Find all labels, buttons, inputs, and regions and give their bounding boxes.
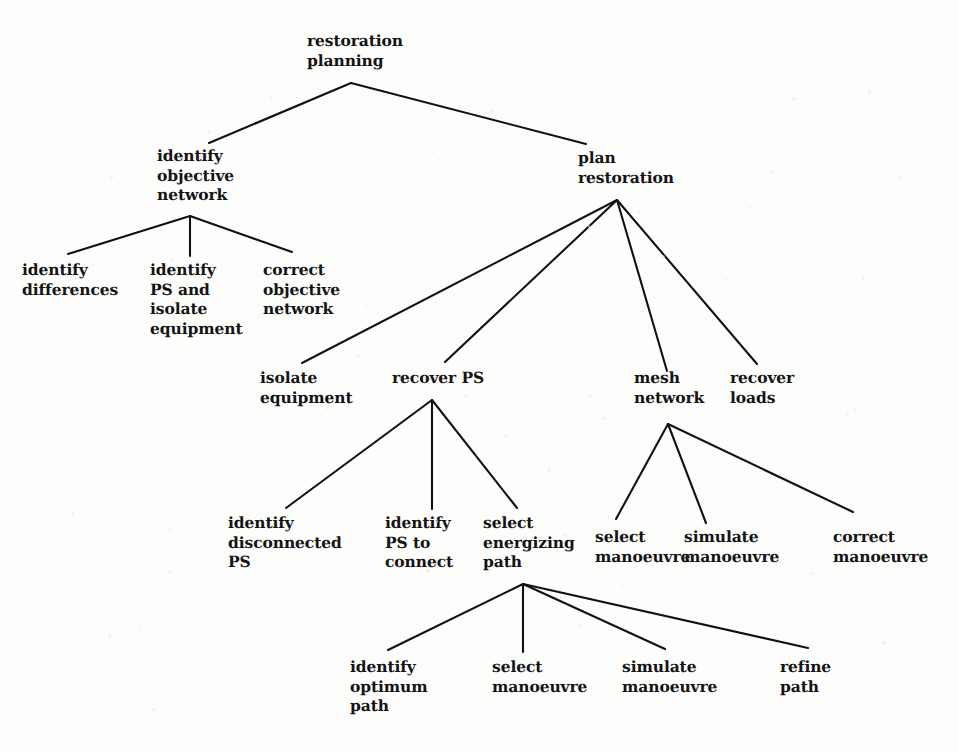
paper-speckle: [118, 182, 120, 184]
edge-restoration-planning-to-plan-restoration: [351, 83, 586, 144]
node-label-line: PS and: [150, 280, 243, 300]
paper-speckle: [782, 726, 784, 728]
paper-speckle: [110, 176, 112, 178]
paper-speckle: [853, 408, 856, 411]
paper-speckle: [579, 623, 582, 626]
paper-speckle: [622, 583, 625, 586]
edge-mesh-network-to-correct-manoeuvre: [668, 424, 853, 512]
paper-speckle: [771, 171, 774, 174]
diagram-canvas: restorationplanningidentifyobjectivenetw…: [0, 0, 959, 752]
node-correct-objective-network[interactable]: correctobjectivenetwork: [263, 260, 340, 319]
node-label-line: path: [780, 677, 831, 697]
node-label-line: identify: [22, 260, 118, 280]
edge-identify-objective-network-to-identify-differences: [68, 216, 190, 254]
node-label-line: connect: [385, 552, 453, 572]
node-label-line: equipment: [260, 388, 353, 408]
node-label-line: manoeuvre: [684, 547, 779, 567]
node-label-line: objective: [157, 166, 234, 186]
paper-speckle: [490, 110, 494, 114]
paper-speckle: [40, 594, 42, 596]
node-label-line: optimum: [350, 677, 428, 697]
node-label-line: select: [483, 513, 575, 533]
node-label-line: plan: [578, 148, 674, 168]
edge-mesh-network-to-simulate-manoeuvre-mesh: [668, 424, 706, 523]
paper-speckle: [882, 641, 886, 645]
node-correct-manoeuvre[interactable]: correctmanoeuvre: [833, 527, 928, 566]
paper-speckle: [36, 243, 37, 244]
paper-speckle: [588, 395, 591, 398]
edge-plan-restoration-to-mesh-network: [617, 200, 667, 371]
edge-plan-restoration-to-isolate-equipment: [302, 200, 617, 363]
node-label-line: select: [492, 657, 587, 677]
paper-speckle: [901, 288, 902, 289]
node-select-manoeuvre-path[interactable]: selectmanoeuvre: [492, 657, 587, 696]
node-simulate-manoeuvre-mesh[interactable]: simulatemanoeuvre: [684, 527, 779, 566]
node-plan-restoration[interactable]: planrestoration: [578, 148, 674, 187]
node-simulate-manoeuvre-path[interactable]: simulatemanoeuvre: [622, 657, 717, 696]
paper-speckle: [372, 608, 373, 609]
paper-speckle: [748, 206, 751, 209]
node-refine-path[interactable]: refinepath: [780, 657, 831, 696]
node-label-line: path: [483, 552, 575, 572]
paper-speckle: [464, 394, 467, 397]
paper-speckle: [169, 528, 172, 531]
node-label-line: network: [634, 388, 704, 408]
node-label-line: mesh: [634, 368, 704, 388]
node-identify-disconnected-ps[interactable]: identifydisconnectedPS: [228, 513, 342, 572]
node-label-line: restoration: [307, 31, 403, 51]
paper-speckle: [387, 474, 388, 475]
paper-speckle: [563, 533, 567, 537]
paper-speckle: [356, 354, 359, 357]
node-label-line: identify: [157, 146, 234, 166]
edge-recover-ps-to-identify-disconnected-ps: [286, 400, 432, 508]
node-identify-ps-and-isolate-equipment[interactable]: identifyPS andisolateequipment: [150, 260, 243, 338]
node-label-line: manoeuvre: [492, 677, 587, 697]
node-label-line: path: [350, 696, 428, 716]
node-label-line: PS to: [385, 533, 453, 553]
paper-speckle: [799, 229, 801, 231]
paper-speckle: [711, 320, 713, 322]
paper-speckle: [504, 434, 507, 437]
paper-speckle: [862, 276, 866, 280]
paper-speckle: [464, 523, 465, 524]
node-label-line: energizing: [483, 533, 575, 553]
node-label-line: network: [263, 299, 340, 319]
paper-speckle: [171, 639, 172, 640]
node-label-line: identify: [350, 657, 428, 677]
paper-speckle: [661, 255, 665, 259]
node-select-energizing-path[interactable]: selectenergizingpath: [483, 513, 575, 572]
node-label-line: refine: [780, 657, 831, 677]
paper-speckle: [547, 468, 551, 472]
node-identify-objective-network[interactable]: identifyobjectivenetwork: [157, 146, 234, 205]
node-label-line: objective: [263, 280, 340, 300]
paper-speckle: [431, 151, 434, 154]
paper-speckle: [724, 278, 727, 281]
node-mesh-network[interactable]: meshnetwork: [634, 368, 704, 407]
node-label-line: simulate: [622, 657, 717, 677]
node-label-line: identify: [150, 260, 243, 280]
node-restoration-planning[interactable]: restorationplanning: [307, 31, 403, 70]
node-identify-optimum-path[interactable]: identifyoptimumpath: [350, 657, 428, 716]
node-recover-ps[interactable]: recover PS: [392, 368, 484, 388]
paper-speckle: [588, 225, 591, 228]
node-label-line: network: [157, 185, 234, 205]
node-label-line: identify: [228, 513, 342, 533]
paper-speckle: [168, 570, 171, 573]
node-label-line: disconnected: [228, 533, 342, 553]
node-label-line: identify: [385, 513, 453, 533]
node-identify-ps-to-connect[interactable]: identifyPS toconnect: [385, 513, 453, 572]
node-label-line: loads: [730, 388, 794, 408]
paper-speckle: [868, 89, 872, 93]
node-identify-differences[interactable]: identifydifferences: [22, 260, 118, 299]
edge-mesh-network-to-select-manoeuvre-mesh: [616, 424, 668, 519]
paper-speckle: [932, 87, 934, 89]
paper-speckle: [351, 503, 353, 505]
paper-speckle: [152, 708, 155, 711]
paper-speckle: [71, 512, 73, 514]
paper-speckle: [248, 421, 251, 424]
node-recover-loads[interactable]: recoverloads: [730, 368, 794, 407]
node-select-manoeuvre-mesh[interactable]: selectmanoeuvre: [595, 527, 690, 566]
paper-speckle: [207, 130, 211, 134]
paper-speckle: [326, 408, 328, 410]
node-isolate-equipment[interactable]: isolateequipment: [260, 368, 353, 407]
